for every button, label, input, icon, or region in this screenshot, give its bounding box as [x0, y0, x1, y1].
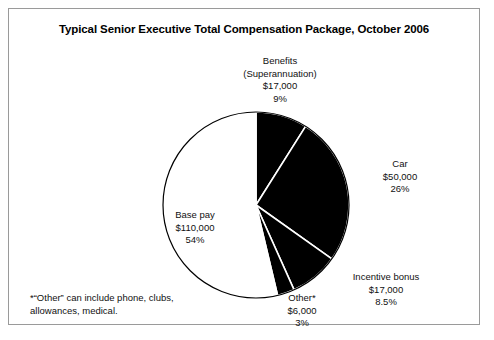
pie-label-incentive-bonus-value: $17,000	[334, 284, 438, 297]
pie-label-car-name: Car	[357, 158, 443, 171]
pie-label-other-percent: 3%	[276, 317, 328, 330]
footnote-line-2: allowances, medical.	[30, 304, 230, 317]
pie-label-car-value: $50,000	[357, 171, 443, 184]
pie-label-other-name: Other*	[276, 292, 328, 305]
pie-label-incentive-bonus: Incentive bonus $17,000 8.5%	[334, 271, 438, 309]
pie-label-benefits-name: Benefits	[209, 55, 351, 68]
pie-label-other: Other* $6,000 3%	[276, 292, 328, 330]
footnote-line-1: *“Other” can include phone, clubs,	[30, 291, 230, 304]
pie-label-incentive-bonus-name: Incentive bonus	[334, 271, 438, 284]
pie-label-base-pay-value: $110,000	[151, 222, 239, 235]
pie-label-car-percent: 26%	[357, 183, 443, 196]
pie-label-base-pay-percent: 54%	[151, 234, 239, 247]
pie-label-benefits-value: $17,000	[209, 80, 351, 93]
pie-label-benefits: Benefits (Superannuation) $17,000 9%	[209, 55, 351, 105]
pie-label-base-pay-name: Base pay	[151, 209, 239, 222]
pie-label-benefits-percent: 9%	[209, 93, 351, 106]
page-title: Typical Senior Executive Total Compensat…	[9, 23, 479, 37]
pie-label-incentive-bonus-percent: 8.5%	[334, 296, 438, 309]
footnote: *“Other” can include phone, clubs, allow…	[30, 291, 230, 317]
pie-label-base-pay: Base pay $110,000 54%	[151, 209, 239, 247]
pie-label-other-value: $6,000	[276, 305, 328, 318]
pie-label-car: Car $50,000 26%	[357, 158, 443, 196]
pie-label-benefits-name2: (Superannuation)	[209, 68, 351, 81]
